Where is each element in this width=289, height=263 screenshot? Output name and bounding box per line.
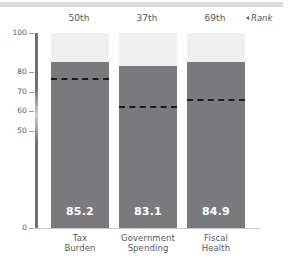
y-tick-mark-100 [29, 33, 34, 34]
y-tick-mark-50 [29, 131, 34, 132]
y-tick-80: 80 [0, 72, 34, 73]
y-tick-100: 100 [0, 33, 34, 34]
y-tick-label-50: 50 [17, 125, 27, 136]
y-tick-mark-70 [29, 92, 34, 93]
category-label-fiscal-health: Fiscal Health [187, 233, 245, 253]
category-label-fiscal-health-line2: Health [187, 243, 245, 253]
category-label-government-spending-line2: Spending [113, 243, 183, 253]
x-axis-baseline [35, 228, 260, 229]
bar-fill-tax-burden: 85.2 [51, 62, 109, 228]
plot-area: 100 80 70 60 50 0 85.2 [0, 0, 289, 263]
average-line-fiscal-health [187, 99, 245, 101]
bar-column-tax-burden[interactable]: 85.2 [51, 33, 109, 228]
y-tick-70: 70 [0, 92, 34, 93]
y-tick-label-80: 80 [17, 66, 27, 77]
bar-column-fiscal-health[interactable]: 84.9 [187, 33, 245, 228]
bar-fill-fiscal-health: 84.9 [187, 62, 245, 228]
bar-value-label-fiscal-health: 84.9 [187, 205, 245, 218]
y-tick-label-0: 0 [22, 222, 27, 233]
average-line-tax-burden [51, 78, 109, 80]
bar-value-label-tax-burden: 85.2 [51, 205, 109, 218]
y-axis-spine [35, 33, 38, 229]
category-label-tax-burden: Tax Burden [51, 233, 109, 253]
category-label-tax-burden-line2: Burden [51, 243, 109, 253]
category-label-government-spending-line1: Government [113, 233, 183, 243]
y-tick-label-100: 100 [12, 27, 27, 38]
category-label-government-spending: Government Spending [113, 233, 183, 253]
bar-fill-government-spending: 83.1 [119, 66, 177, 228]
y-tick-label-60: 60 [17, 105, 27, 116]
chart-root: 50th 37th 69th Rank 100 80 70 60 50 0 [0, 0, 289, 263]
average-line-government-spending [119, 106, 177, 108]
category-label-fiscal-health-line1: Fiscal [187, 233, 245, 243]
y-tick-label-70: 70 [17, 86, 27, 97]
category-label-tax-burden-line1: Tax [51, 233, 109, 243]
y-tick-50: 50 [0, 131, 34, 132]
bar-value-label-government-spending: 83.1 [119, 205, 177, 218]
y-tick-60: 60 [0, 111, 34, 112]
y-tick-mark-0 [29, 228, 34, 229]
bar-column-government-spending[interactable]: 83.1 [119, 33, 177, 228]
y-tick-mark-60 [29, 111, 34, 112]
y-tick-mark-80 [29, 72, 34, 73]
y-tick-0: 0 [0, 228, 34, 229]
